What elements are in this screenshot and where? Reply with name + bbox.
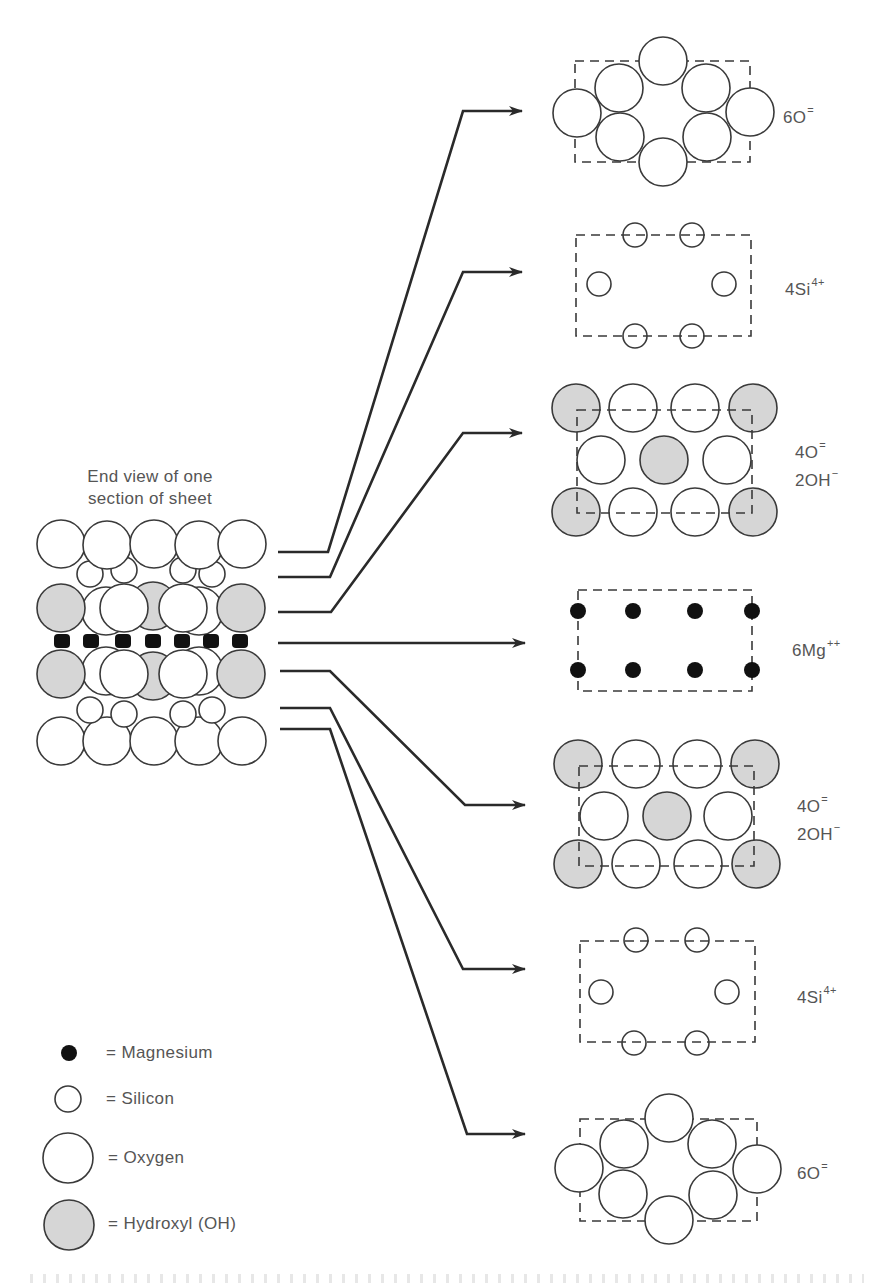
magnesium-ion [115, 634, 131, 648]
label-formula: 6Mg [792, 641, 826, 660]
oxygen-atom [639, 37, 687, 85]
unit-cell-dashed-box [578, 590, 752, 691]
section-title: End view of one section of sheet [0, 466, 300, 510]
hydroxyl-ion [729, 384, 777, 432]
label-formula: 6O [797, 1164, 820, 1183]
magnesium-ion [625, 662, 641, 678]
hydroxyl-ion [554, 740, 602, 788]
oxygen-atom [609, 384, 657, 432]
arrow-to-layer-6 [280, 708, 525, 969]
oxygen-atom [609, 488, 657, 536]
oxygen-atom [671, 384, 719, 432]
layer-1-label: 6O= [783, 102, 814, 128]
hydroxyl-ion [217, 584, 265, 632]
oxygen-atom [130, 717, 178, 765]
oxygen-atom [37, 717, 85, 765]
oxygen-atom [600, 1120, 648, 1168]
layer-5-label: 4O= 2OH− [797, 791, 841, 844]
upper-oxygen-hydroxyl-row [37, 582, 265, 635]
oxygen-atom [218, 520, 266, 568]
magnesium-ion [54, 634, 70, 648]
oxygen-atom [683, 113, 731, 161]
silicon-atom [624, 928, 648, 952]
hydroxyl-ion [732, 840, 780, 888]
magnesium-ion [570, 603, 586, 619]
silicon-atom [199, 697, 225, 723]
silicon-atom [170, 701, 196, 727]
silicon-atom [622, 1031, 646, 1055]
silicon-atom [685, 1031, 709, 1055]
oxygen-atom [100, 650, 148, 698]
layer-6-label: 4Si4+ [797, 982, 837, 1008]
magnesium-ion [232, 634, 248, 648]
oxygen-atom [688, 1120, 736, 1168]
oxygen-atom [595, 64, 643, 112]
label-charge-2: − [832, 467, 839, 479]
lower-oxygen-hydroxyl-row [37, 647, 265, 700]
label-charge: 4+ [811, 276, 824, 288]
end-view-sheet [37, 520, 266, 765]
arrow-to-layer-1 [278, 111, 522, 552]
layer-7-oxygen-ring [555, 1094, 781, 1244]
label-charge: = [821, 793, 828, 805]
layer-6-silicon [580, 928, 755, 1055]
label-formula-2: 2OH [795, 470, 831, 489]
silicon-atom [685, 928, 709, 952]
label-charge: ++ [827, 637, 840, 649]
layer-2-silicon [576, 223, 751, 348]
oxygen-atom [612, 740, 660, 788]
oxygen-atom [599, 1170, 647, 1218]
magnesium-ion [687, 662, 703, 678]
legend-symbols [43, 1045, 94, 1250]
oxygen-atom [671, 488, 719, 536]
oxygen-atom [645, 1094, 693, 1142]
oxygen-atom [682, 64, 730, 112]
magnesium-ion [687, 603, 703, 619]
silicon-atom [77, 697, 103, 723]
oxygen-atom [555, 1144, 603, 1192]
label-formula: 4Si [785, 280, 810, 299]
hydroxyl-ion [552, 488, 600, 536]
oxygen-atom [130, 520, 178, 568]
section-title-line-2: section of sheet [0, 488, 300, 510]
hydroxyl-ion [217, 650, 265, 698]
layer-4-label: 6Mg++ [792, 635, 840, 661]
oxygen-atom [100, 584, 148, 632]
silicon-atom [111, 701, 137, 727]
oxygen-atom [689, 1171, 737, 1219]
label-charge: = [821, 1160, 828, 1172]
oxygen-atom [577, 436, 625, 484]
layer-3-label: 4O= 2OH− [795, 437, 839, 490]
diagram-canvas: End view of one section of sheet 6O= 4Si… [0, 0, 887, 1283]
magnesium-ion [744, 603, 760, 619]
magnesium-ion [570, 662, 586, 678]
label-charge: 4+ [823, 984, 836, 996]
label-formula-2: 2OH [797, 824, 833, 843]
silicon-atom [712, 272, 736, 296]
magnesium-ion [174, 634, 190, 648]
legend-item-silicon: = Silicon [106, 1089, 174, 1109]
bottom-oxygen-row [37, 717, 266, 765]
layer-5-oxygen-hydroxyl [554, 740, 780, 888]
cutoff-figure-caption [24, 1274, 864, 1283]
oxygen-atom [37, 520, 85, 568]
unit-cell-dashed-box [576, 235, 751, 336]
label-formula: 6O [783, 108, 806, 127]
oxygen-atom [580, 792, 628, 840]
oxygen-atom [704, 792, 752, 840]
top-oxygen-row [37, 520, 266, 569]
layer-7-label: 6O= [797, 1158, 828, 1184]
legend-item-hydroxyl: = Hydroxyl (OH) [108, 1214, 236, 1234]
layer-2-label: 4Si4+ [785, 274, 825, 300]
magnesium-ion [203, 634, 219, 648]
label-charge: = [819, 439, 826, 451]
oxygen-atom [83, 521, 131, 569]
silicon-atom [589, 980, 613, 1004]
oxygen-atom [703, 436, 751, 484]
hydroxyl-ion [640, 436, 688, 484]
magnesium-ion [744, 662, 760, 678]
arrow-to-layer-7 [280, 729, 525, 1134]
legend-oxygen-icon [43, 1133, 93, 1183]
label-formula: 4O [795, 443, 818, 462]
silicon-atom [715, 980, 739, 1004]
